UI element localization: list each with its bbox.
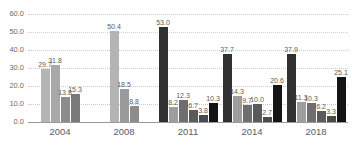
bar-value-label: 2.7	[262, 109, 272, 116]
bar[interactable]	[169, 107, 178, 122]
bar-item[interactable]: 15.3	[71, 14, 80, 122]
bar[interactable]	[327, 116, 336, 122]
bar-item[interactable]: 50.4	[110, 14, 119, 122]
bar-value-label: 25.1	[334, 69, 348, 76]
x-axis-label-2014: 2014	[220, 127, 284, 137]
bar-item[interactable]: 29.7	[41, 14, 50, 122]
bar-item[interactable]: 11.3	[297, 14, 306, 122]
bar-value-label: 20.6	[270, 77, 284, 84]
bar-value-label: 3.8	[198, 107, 208, 114]
bar-item[interactable]: 6.2	[317, 14, 326, 122]
bar-item[interactable]: 12.3	[179, 14, 188, 122]
bar[interactable]	[199, 115, 208, 122]
bar-value-label: 3.3	[326, 108, 336, 115]
bar-group-2014: 37.714.39.710.02.720.6	[223, 14, 282, 122]
bar[interactable]	[287, 54, 296, 122]
group-bars: 29.731.813.815.3	[41, 14, 80, 122]
bar-item[interactable]: 2.7	[263, 14, 272, 122]
bar[interactable]	[253, 104, 262, 122]
group-bars: 37.714.39.710.02.720.6	[223, 14, 282, 122]
bar[interactable]	[189, 110, 198, 122]
bar[interactable]	[120, 89, 129, 122]
bar-item[interactable]: 10.3	[307, 14, 316, 122]
bar-item[interactable]: 9.7	[243, 14, 252, 122]
bar-item[interactable]: 25.1	[337, 14, 346, 122]
y-axis-tick-label: 0.0	[0, 118, 24, 126]
bar-group-2011: 53.08.212.36.73.810.3	[159, 14, 218, 122]
bar-item[interactable]: 37.9	[287, 14, 296, 122]
bar[interactable]	[130, 106, 139, 122]
group-bars: 53.08.212.36.73.810.3	[159, 14, 218, 122]
bar-item[interactable]: 8.8	[130, 14, 139, 122]
bar[interactable]	[209, 103, 218, 122]
bar-value-label: 6.7	[188, 102, 198, 109]
bar-item[interactable]: 14.3	[233, 14, 242, 122]
y-axis-tick-label: 60.0	[0, 10, 24, 18]
bar-item[interactable]: 10.3	[209, 14, 218, 122]
bar[interactable]	[41, 69, 50, 122]
bar-item[interactable]: 18.5	[120, 14, 129, 122]
bar-group-2008: 50.418.58.8	[110, 14, 139, 122]
bar[interactable]	[307, 103, 316, 122]
bar-value-label: 10.3	[206, 95, 220, 102]
bar[interactable]	[337, 77, 346, 122]
x-axis-line	[28, 122, 348, 123]
group-bars: 50.418.58.8	[110, 14, 139, 122]
bar[interactable]	[71, 94, 80, 122]
bar-value-label: 8.2	[168, 99, 178, 106]
x-axis-label-2011: 2011	[156, 127, 220, 137]
x-axis-label-2008: 2008	[92, 127, 156, 137]
bar[interactable]	[110, 31, 119, 122]
bar-item[interactable]: 6.7	[189, 14, 198, 122]
bar-item[interactable]: 3.8	[199, 14, 208, 122]
bar-value-label: 8.8	[129, 98, 139, 105]
x-axis-label-2004: 2004	[28, 127, 92, 137]
bar[interactable]	[61, 97, 70, 122]
bar-item[interactable]: 13.8	[61, 14, 70, 122]
bar-item[interactable]: 20.6	[273, 14, 282, 122]
bar[interactable]	[317, 111, 326, 122]
bar[interactable]	[273, 85, 282, 122]
bar-item[interactable]: 10.0	[253, 14, 262, 122]
x-axis-label-2018: 2018	[284, 127, 348, 137]
bar[interactable]	[243, 105, 252, 122]
y-axis-tick-label: 10.0	[0, 100, 24, 108]
bar-group-2018: 37.911.310.36.23.325.1	[287, 14, 346, 122]
bar-value-label: 15.3	[68, 86, 82, 93]
bar[interactable]	[179, 100, 188, 122]
bar-item[interactable]: 37.7	[223, 14, 232, 122]
bar-chart: 0.010.020.030.040.050.060.0 29.731.813.8…	[0, 0, 352, 147]
y-axis-tick-label: 40.0	[0, 46, 24, 54]
bar-item[interactable]: 53.0	[159, 14, 168, 122]
y-axis-tick-label: 50.0	[0, 28, 24, 36]
bar[interactable]	[233, 96, 242, 122]
bar-value-label: 6.2	[316, 103, 326, 110]
bar-item[interactable]: 8.2	[169, 14, 178, 122]
plot-area: 29.731.813.815.350.418.58.853.08.212.36.…	[28, 14, 348, 122]
group-bars: 37.911.310.36.23.325.1	[287, 14, 346, 122]
bar[interactable]	[263, 117, 272, 122]
bar[interactable]	[297, 102, 306, 122]
bar-item[interactable]: 31.8	[51, 14, 60, 122]
bar[interactable]	[159, 27, 168, 122]
y-axis-tick-label: 20.0	[0, 82, 24, 90]
bar-group-2004: 29.731.813.815.3	[41, 14, 80, 122]
y-axis-tick-label: 30.0	[0, 64, 24, 72]
